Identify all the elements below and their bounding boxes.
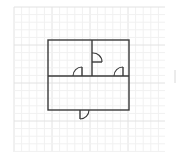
floor-plan-canvas [0, 0, 177, 161]
